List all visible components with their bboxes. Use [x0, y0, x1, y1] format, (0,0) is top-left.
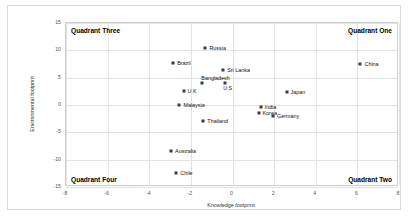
gridline-horizontal [66, 132, 397, 133]
x-tick-2: 2 [272, 190, 275, 196]
data-point-label: Bangladesh [201, 75, 229, 81]
data-point[interactable] [172, 61, 175, 64]
data-point[interactable] [178, 104, 181, 107]
quadrant-three-label: Quadrant Three [71, 27, 120, 34]
data-point-label: U.K [188, 88, 197, 94]
x-tick-8: 8 [397, 190, 400, 196]
x-tick--6: -6 [104, 190, 109, 196]
x-tick-4: 4 [313, 190, 316, 196]
gridline-vertical [149, 23, 150, 185]
gridline-horizontal [66, 23, 397, 24]
gridline-vertical [233, 23, 234, 185]
gridline-horizontal [66, 105, 397, 106]
data-point[interactable] [222, 69, 225, 72]
data-point[interactable] [182, 90, 185, 93]
gridline-vertical [108, 23, 109, 185]
data-point[interactable] [272, 115, 275, 118]
data-point[interactable] [359, 63, 362, 66]
data-point-label: Germany [277, 113, 299, 119]
x-axis-title: Knowledge footprint [207, 202, 255, 208]
plot-area: RussiaBrazilChinaSri LankaBangladeshU.SU… [65, 22, 398, 186]
gridline-horizontal [66, 160, 397, 161]
data-point-label: Japan [291, 89, 306, 95]
x-tick--2: -2 [188, 190, 193, 196]
data-point-label: Russia [209, 45, 225, 51]
y-axis-title: Environmental footprint [29, 76, 35, 131]
data-point-label: Australia [175, 148, 196, 154]
x-tick--4: -4 [146, 190, 151, 196]
data-point-label: Malaysia [183, 102, 204, 108]
data-point-label: U.S [223, 85, 232, 91]
gridline-horizontal [66, 78, 397, 79]
scatter-chart: Environmental footprint Knowledge footpr… [7, 5, 401, 210]
gridline-horizontal [66, 50, 397, 51]
data-point-label: Thailand [207, 118, 228, 124]
data-point[interactable] [204, 47, 207, 50]
data-point-label: Chile [180, 170, 192, 176]
y-tick-0: 0 [47, 101, 61, 107]
y-tick-15: 15 [47, 19, 61, 25]
gridline-vertical [66, 23, 67, 185]
gridline-vertical [316, 23, 317, 185]
data-point-label: China [364, 61, 378, 67]
x-tick-0: 0 [230, 190, 233, 196]
data-point[interactable] [285, 91, 288, 94]
data-point[interactable] [170, 150, 173, 153]
y-tick--15: -15 [47, 183, 61, 189]
x-tick--8: -8 [63, 190, 68, 196]
data-point[interactable] [257, 111, 260, 114]
y-tick--5: -5 [47, 128, 61, 134]
quadrant-one-label: Quadrant One [348, 27, 392, 34]
data-point-label: Brazil [177, 60, 190, 66]
y-tick-10: 10 [47, 46, 61, 52]
quadrant-four-label: Quadrant Four [71, 176, 117, 183]
gridline-vertical [357, 23, 358, 185]
data-point[interactable] [175, 171, 178, 174]
gridline-horizontal [66, 187, 397, 188]
quadrant-two-label: Quadrant Two [348, 176, 392, 183]
data-point-label: Sri Lanka [227, 67, 250, 73]
data-point[interactable] [202, 119, 205, 122]
data-point-label: Korea [263, 110, 277, 116]
y-tick-5: 5 [47, 74, 61, 80]
x-tick-6: 6 [355, 190, 358, 196]
data-point[interactable] [259, 106, 262, 109]
y-tick--10: -10 [47, 156, 61, 162]
data-point[interactable] [201, 81, 204, 84]
gridline-vertical [399, 23, 400, 185]
